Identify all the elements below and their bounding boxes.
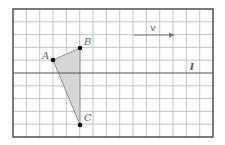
line-label: l <box>190 61 194 72</box>
point-b-label: B <box>83 36 91 47</box>
arrowhead-icon <box>169 33 175 38</box>
geometry-diagram: v l A B C <box>0 0 225 145</box>
vector-label: v <box>150 22 156 33</box>
point-a-label: A <box>41 50 49 61</box>
point-c-label: C <box>84 112 92 123</box>
vector-v: v <box>134 22 175 38</box>
